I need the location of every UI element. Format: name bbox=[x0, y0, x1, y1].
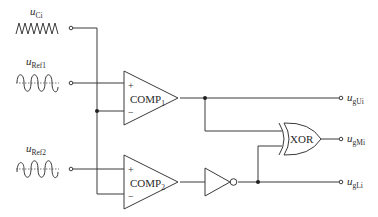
terminal-uci bbox=[69, 26, 73, 30]
circuit-diagram: uCi uRef1 uRef2 bbox=[0, 0, 378, 217]
junction-dot bbox=[203, 96, 207, 100]
xor-gate: XOR bbox=[279, 123, 321, 155]
inverter-gate bbox=[205, 168, 237, 196]
junction-dot bbox=[95, 109, 99, 113]
comparator-comp1: + − COMP1 bbox=[124, 71, 178, 125]
terminal-ugmi bbox=[339, 137, 343, 141]
output-label-ugui: ugUi bbox=[347, 91, 364, 106]
triangle-wave-icon bbox=[16, 23, 58, 34]
terminal-ugli bbox=[339, 180, 343, 184]
inversion-bubble bbox=[230, 179, 237, 186]
terminal-ugui bbox=[339, 96, 343, 100]
output-label-ugli: ugLi bbox=[347, 175, 363, 190]
sine-wave-icon-ref2 bbox=[16, 161, 59, 178]
input-label-uref1: uRef1 bbox=[26, 55, 46, 70]
output-label-ugmi: ugMi bbox=[347, 132, 365, 147]
junction-dot bbox=[256, 180, 260, 184]
comparator-comp2: + − COMP2 bbox=[124, 155, 178, 209]
sine-wave-icon-ref1 bbox=[16, 75, 59, 92]
comp2-minus: − bbox=[128, 191, 134, 202]
comp1-plus: + bbox=[128, 80, 134, 91]
terminal-uref2 bbox=[69, 167, 73, 171]
comp1-minus: − bbox=[128, 107, 134, 118]
input-label-uci: uCi bbox=[30, 5, 43, 20]
terminal-uref1 bbox=[69, 81, 73, 85]
input-label-uref2: uRef2 bbox=[26, 142, 46, 157]
xor-label: XOR bbox=[290, 133, 314, 145]
comp2-plus: + bbox=[128, 164, 134, 175]
